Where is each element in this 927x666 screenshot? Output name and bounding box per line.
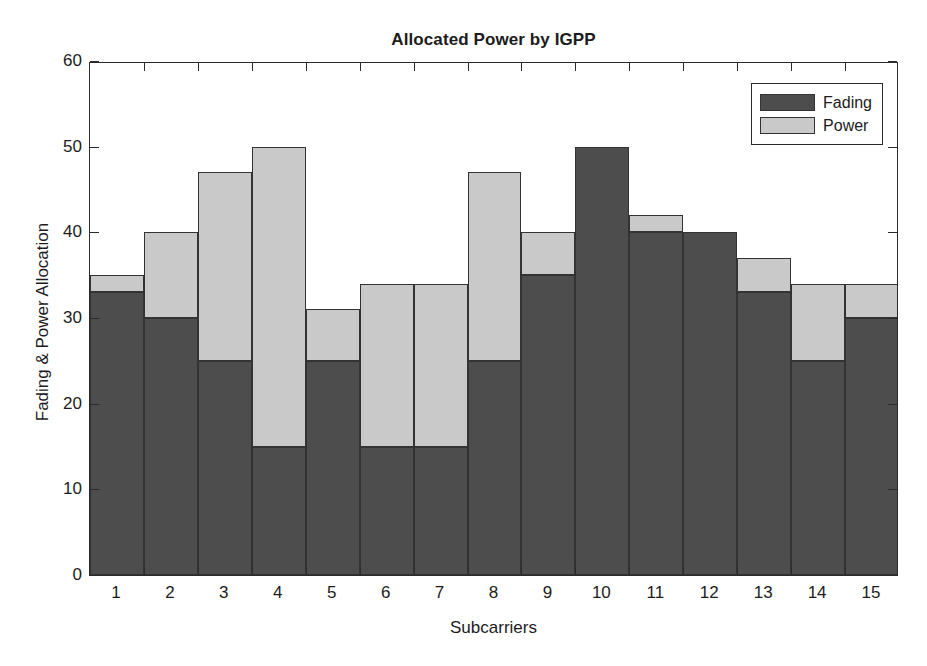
legend-label-power: Power xyxy=(823,117,868,135)
x-tick-mark-top xyxy=(252,63,253,71)
x-tick-mark-top xyxy=(521,63,522,71)
legend-swatch-fading xyxy=(760,94,815,111)
bar-group xyxy=(144,232,198,575)
x-tick-label: 13 xyxy=(754,583,773,603)
y-tick-mark-right xyxy=(888,232,897,233)
bar-segment-power xyxy=(306,309,360,360)
y-tick-mark-right xyxy=(888,404,897,405)
y-axis-label: Fading & Power Allocation xyxy=(33,157,53,487)
x-tick-mark-top xyxy=(144,63,145,71)
bar-group xyxy=(468,172,522,575)
y-tick-mark xyxy=(90,61,99,62)
bar-segment-power xyxy=(252,147,306,447)
bar-group xyxy=(629,215,683,575)
y-tick-mark-right xyxy=(888,147,897,148)
y-tick-label: 60 xyxy=(63,51,82,71)
x-tick-mark xyxy=(414,567,415,575)
y-tick-mark-right xyxy=(888,489,897,490)
chart-legend: Fading Power xyxy=(751,83,883,145)
bar-segment-fading xyxy=(575,147,629,575)
x-tick-label: 10 xyxy=(592,583,611,603)
x-tick-mark xyxy=(575,567,576,575)
x-tick-label: 11 xyxy=(646,583,664,603)
bar-group xyxy=(414,284,468,575)
y-tick-label: 40 xyxy=(63,222,82,242)
x-tick-mark-top xyxy=(414,63,415,71)
y-tick-mark xyxy=(90,489,99,490)
x-axis-label: Subcarriers xyxy=(89,618,898,638)
bar-segment-fading xyxy=(144,318,198,575)
bar-group xyxy=(252,147,306,575)
bar-segment-power xyxy=(198,172,252,360)
x-tick-label: 4 xyxy=(273,583,282,603)
y-tick-mark xyxy=(90,575,99,576)
bar-group xyxy=(791,284,845,575)
bar-segment-power xyxy=(90,275,144,292)
x-tick-mark xyxy=(198,567,199,575)
bar-group xyxy=(683,232,737,575)
x-tick-mark xyxy=(629,567,630,575)
x-tick-mark-top xyxy=(360,63,361,71)
bar-segment-fading xyxy=(791,361,845,575)
x-tick-mark xyxy=(737,567,738,575)
y-tick-mark xyxy=(90,318,99,319)
y-tick-mark-right xyxy=(888,61,897,62)
bar-segment-power xyxy=(737,258,791,292)
chart-figure: Allocated Power by IGPP 0102030405060 Fa… xyxy=(0,0,927,666)
y-tick-label: 10 xyxy=(63,479,82,499)
x-tick-mark-top xyxy=(791,63,792,71)
x-tick-label: 5 xyxy=(327,583,336,603)
x-tick-mark xyxy=(521,567,522,575)
bar-segment-power xyxy=(360,284,414,447)
plot-area: 0102030405060 Fading Power xyxy=(89,62,898,576)
x-tick-label: 1 xyxy=(111,583,120,603)
bar-segment-power xyxy=(521,232,575,275)
x-tick-label: 7 xyxy=(435,583,444,603)
bar-group xyxy=(360,284,414,575)
bar-segment-power xyxy=(791,284,845,361)
x-tick-mark-top xyxy=(306,63,307,71)
bar-segment-fading xyxy=(521,275,575,575)
y-tick-label: 50 xyxy=(63,137,82,157)
x-tick-label: 6 xyxy=(381,583,390,603)
bar-segment-power xyxy=(414,284,468,447)
y-tick-mark xyxy=(90,404,99,405)
bar-segment-power xyxy=(468,172,522,360)
bar-segment-power xyxy=(845,284,897,318)
x-tick-mark xyxy=(252,567,253,575)
x-tick-mark xyxy=(144,567,145,575)
x-tick-mark-top xyxy=(575,63,576,71)
x-tick-mark-top xyxy=(683,63,684,71)
bar-segment-fading xyxy=(683,232,737,575)
x-tick-mark xyxy=(360,567,361,575)
legend-label-fading: Fading xyxy=(823,94,872,112)
bar-segment-fading xyxy=(629,232,683,575)
bar-segment-fading xyxy=(252,447,306,576)
bar-group xyxy=(306,309,360,575)
bar-segment-power xyxy=(629,215,683,232)
bar-segment-fading xyxy=(306,361,360,575)
bar-group xyxy=(575,147,629,575)
bar-segment-power xyxy=(144,232,198,318)
x-tick-label: 3 xyxy=(219,583,228,603)
x-tick-mark xyxy=(468,567,469,575)
y-tick-label: 30 xyxy=(63,308,82,328)
bar-segment-fading xyxy=(360,447,414,576)
bar-group xyxy=(90,275,144,575)
y-tick-label: 0 xyxy=(73,565,82,585)
bar-group xyxy=(845,284,897,575)
bar-group xyxy=(737,258,791,575)
x-tick-mark-top xyxy=(845,63,846,71)
y-tick-mark xyxy=(90,147,99,148)
x-tick-mark-top xyxy=(198,63,199,71)
x-tick-mark xyxy=(791,567,792,575)
bar-group xyxy=(198,172,252,575)
bar-segment-fading xyxy=(845,318,897,575)
x-tick-label: 14 xyxy=(808,583,827,603)
x-tick-mark xyxy=(683,567,684,575)
x-tick-mark xyxy=(306,567,307,575)
chart-title: Allocated Power by IGPP xyxy=(89,30,898,50)
x-tick-mark xyxy=(845,567,846,575)
bar-group xyxy=(521,232,575,575)
bar-segment-fading xyxy=(468,361,522,575)
